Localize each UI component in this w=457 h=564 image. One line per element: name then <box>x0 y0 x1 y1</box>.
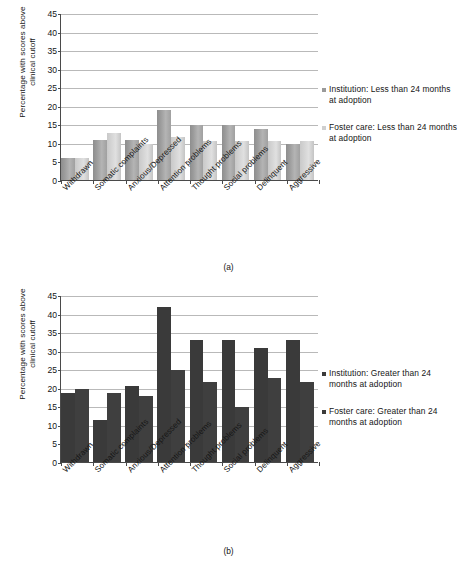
y-axis-tick-label: 0 <box>52 458 57 468</box>
bar-group <box>61 296 93 462</box>
y-axis-tick-label: 20 <box>47 102 57 112</box>
y-axis-tick-label: 15 <box>47 402 57 412</box>
x-axis-tick <box>255 462 256 466</box>
y-axis-title-text-a: Percentage with scores above <box>18 0 28 150</box>
legend-item-foster-care-a: Foster care: Less than 24 months at adop… <box>322 122 457 143</box>
legend-label-institution-a: Institution: Less than 24 months at adop… <box>329 84 457 105</box>
y-axis-tick-label: 5 <box>52 439 57 449</box>
y-axis-title-a: Percentage with scores above clinical cu… <box>18 0 38 150</box>
y-axis-tick-label: 45 <box>47 9 57 19</box>
y-axis-tick-label: 10 <box>47 421 57 431</box>
legend-swatch-icon <box>322 410 326 414</box>
legend-swatch-icon <box>322 126 326 130</box>
chart-panel-b: Percentage with scores above clinical cu… <box>0 282 457 564</box>
subfigure-caption-a: (a) <box>0 262 457 272</box>
bar-group <box>61 14 93 180</box>
y-axis-tick-label: 45 <box>47 291 57 301</box>
y-axis-tick-label: 20 <box>47 384 57 394</box>
y-axis-tick-label: 40 <box>47 28 57 38</box>
y-axis-title-b: Percentage with scores above clinical cu… <box>18 257 38 432</box>
x-axis-tick <box>158 462 159 466</box>
y-axis-tick-label: 0 <box>52 176 57 186</box>
legend-label-institution-b: Institution: Greater than 24 months at a… <box>329 368 457 389</box>
y-axis-tick-label: 25 <box>47 83 57 93</box>
legend-a: Institution: Less than 24 months at adop… <box>322 84 457 160</box>
legend-label-foster-care-b: Foster care: Greater than 24 months at a… <box>329 406 457 427</box>
legend-item-institution-a: Institution: Less than 24 months at adop… <box>322 84 457 105</box>
subfigure-caption-b: (b) <box>0 546 457 556</box>
x-axis-tick <box>319 462 320 466</box>
legend-item-institution-b: Institution: Greater than 24 months at a… <box>322 368 457 389</box>
y-axis-tick-label: 5 <box>52 157 57 167</box>
x-axis-tick <box>319 180 320 184</box>
bar-institution <box>61 393 75 462</box>
y-axis-title-text-b2: clinical cutoff <box>28 257 38 432</box>
y-axis-tick-label: 40 <box>47 310 57 320</box>
y-axis-tick-label: 25 <box>47 365 57 375</box>
figure-page: Percentage with scores above clinical cu… <box>0 0 457 564</box>
y-axis-title-text-a2: clinical cutoff <box>28 0 38 150</box>
y-axis-title-text-b: Percentage with scores above <box>18 257 28 432</box>
bar-group <box>286 296 318 462</box>
y-axis-tick-label: 10 <box>47 139 57 149</box>
y-axis-tick-label: 35 <box>47 46 57 56</box>
bar-group <box>93 14 125 180</box>
y-axis-tick-label: 35 <box>47 328 57 338</box>
x-axis-tick <box>158 180 159 184</box>
legend-b: Institution: Greater than 24 months at a… <box>322 368 457 444</box>
bar-group <box>286 14 318 180</box>
legend-item-foster-care-b: Foster care: Greater than 24 months at a… <box>322 406 457 427</box>
bar-group <box>93 296 125 462</box>
x-axis-labels-b: WithdrawnSomatic complaintsAnxious/Depre… <box>60 468 318 538</box>
y-axis-tick-label: 30 <box>47 347 57 357</box>
x-axis-tick <box>126 180 127 184</box>
x-axis-tick <box>287 180 288 184</box>
y-axis-tick-label: 15 <box>47 120 57 130</box>
x-axis-tick <box>255 180 256 184</box>
legend-swatch-icon <box>322 372 326 376</box>
legend-swatch-icon <box>322 88 326 92</box>
x-axis-labels-a: WithdrawnSomatic complaintsAnxious/Depre… <box>60 186 318 256</box>
x-axis-tick <box>126 462 127 466</box>
y-axis-tick-label: 30 <box>47 65 57 75</box>
chart-panel-a: Percentage with scores above clinical cu… <box>0 0 457 282</box>
legend-label-foster-care-a: Foster care: Less than 24 months at adop… <box>329 122 457 143</box>
x-axis-tick <box>287 462 288 466</box>
